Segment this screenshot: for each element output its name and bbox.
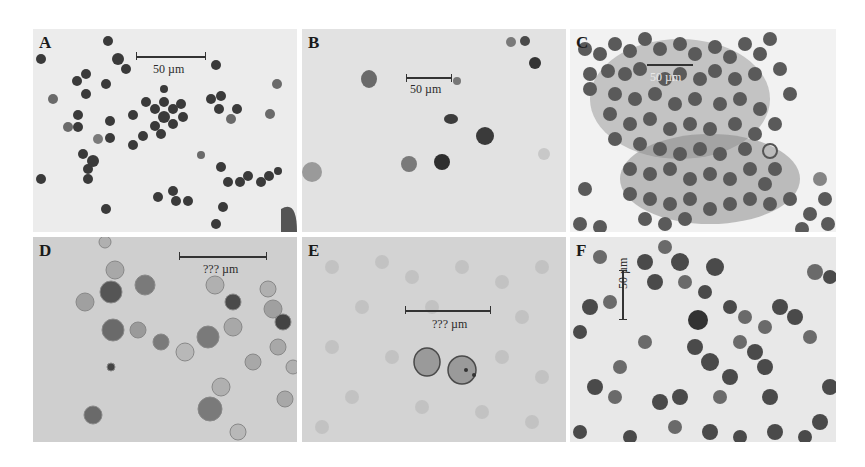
- panel-label-c: C: [576, 33, 588, 53]
- panel-label-e: E: [308, 241, 319, 261]
- scale-label-c: 50 µm: [650, 70, 681, 85]
- scale-cap-a-left: [136, 52, 137, 60]
- scale-cap-d-left: [179, 252, 180, 260]
- scale-label-e: ??? µm: [432, 317, 467, 332]
- micrograph-c: [570, 29, 836, 232]
- panel-c: C 50 µm: [570, 29, 836, 232]
- scale-cap-f-bottom: [619, 319, 627, 320]
- micrograph-d: [33, 237, 297, 442]
- scale-label-a: 50 µm: [153, 62, 184, 77]
- scale-cap-a-right: [205, 52, 206, 60]
- micrograph-e: [302, 237, 566, 442]
- scale-label-f: 50 µm: [616, 258, 631, 289]
- panel-label-b: B: [308, 33, 319, 53]
- scale-bar-d: [179, 256, 267, 258]
- panel-b: B 50 µm: [302, 29, 566, 232]
- scale-cap-e-right: [490, 306, 491, 314]
- scale-cap-b-left: [406, 74, 407, 82]
- scale-bar-b: [406, 77, 452, 79]
- scale-bar-c: [647, 64, 693, 66]
- panel-e: E ??? µm: [302, 237, 566, 442]
- scale-cap-d-right: [266, 252, 267, 260]
- scale-cap-b-right: [451, 74, 452, 82]
- panel-f: F 50 µm: [570, 237, 836, 442]
- scale-cap-e-left: [405, 306, 406, 314]
- scale-label-b: 50 µm: [410, 82, 441, 97]
- panel-a: A 50 µm: [33, 29, 297, 232]
- scale-label-d: ??? µm: [203, 262, 238, 277]
- panel-label-d: D: [39, 241, 51, 261]
- micrograph-a: [33, 29, 297, 232]
- panel-label-a: A: [39, 33, 51, 53]
- scale-bar-a: [136, 56, 206, 58]
- panel-d: D ??? µm: [33, 237, 297, 442]
- scale-bar-e: [405, 310, 491, 312]
- panel-label-f: F: [576, 241, 586, 261]
- micrograph-f: [570, 237, 836, 442]
- micrograph-b: [302, 29, 566, 232]
